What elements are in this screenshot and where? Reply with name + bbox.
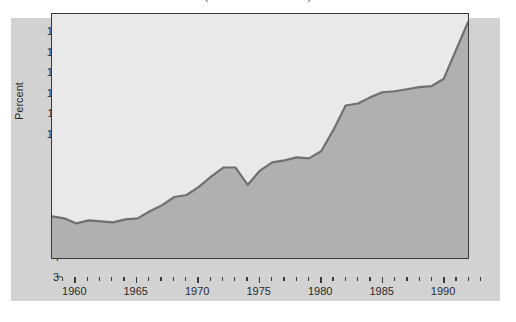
x-axis-tick-marks — [62, 277, 480, 284]
x-axis-tick-mark-minor — [431, 277, 432, 281]
x-axis-tick-mark-major — [74, 277, 76, 283]
x-axis-tick-mark-major — [382, 277, 384, 283]
x-axis-tick-label: 1980 — [298, 285, 342, 298]
x-axis-tick-mark-minor — [99, 277, 100, 281]
plot-area — [51, 13, 469, 259]
x-axis-tick-mark-major — [259, 277, 261, 283]
x-axis-tick-mark-minor — [185, 277, 186, 281]
chart-figure: (1959 - 1993 Annual) Percent 34567891011… — [0, 0, 516, 322]
chart-title: (1959 - 1993 Annual) — [0, 0, 516, 3]
x-axis-tick-mark-minor — [406, 277, 407, 281]
chart-title-container: (1959 - 1993 Annual) — [0, 0, 516, 5]
x-axis-tick-mark-minor — [87, 277, 88, 281]
x-axis-tick-mark-minor — [455, 277, 456, 281]
x-axis-tick-mark-minor — [296, 277, 297, 281]
x-axis-tick-mark-minor — [62, 277, 63, 281]
x-axis-tick-mark-minor — [345, 277, 346, 281]
x-axis-tick-mark-minor — [173, 277, 174, 281]
x-axis-tick-mark-minor — [332, 277, 333, 281]
x-axis-tick-mark-minor — [210, 277, 211, 281]
x-axis-tick-mark-minor — [234, 277, 235, 281]
area-chart-svg — [52, 14, 468, 258]
x-axis-tick-mark-major — [443, 277, 445, 283]
x-axis-labels: 1960196519701975198019851990 — [62, 285, 480, 301]
x-axis-tick-mark-major — [320, 277, 322, 283]
x-axis-tick-label: 1965 — [114, 285, 158, 298]
x-axis-tick-mark-minor — [148, 277, 149, 281]
x-axis-tick-mark-minor — [308, 277, 309, 281]
x-axis-tick-mark-minor — [123, 277, 124, 281]
x-axis-tick-mark-minor — [246, 277, 247, 281]
x-axis-tick-mark-minor — [160, 277, 161, 281]
x-axis-tick-mark-major — [197, 277, 199, 283]
x-axis-tick-mark-major — [136, 277, 138, 283]
x-axis-tick-mark-minor — [480, 277, 481, 281]
x-axis-tick-mark-minor — [369, 277, 370, 281]
x-axis-tick-label: 1975 — [237, 285, 281, 298]
x-axis-tick-mark-minor — [419, 277, 420, 281]
x-axis-tick-label: 1985 — [360, 285, 404, 298]
x-axis-tick-mark-minor — [271, 277, 272, 281]
x-axis-tick-label: 1960 — [52, 285, 96, 298]
x-axis-tick-label: 1970 — [175, 285, 219, 298]
x-axis-tick-mark-minor — [394, 277, 395, 281]
x-axis-tick-mark-minor — [357, 277, 358, 281]
x-axis-tick-mark-minor — [111, 277, 112, 281]
x-axis-tick-mark-minor — [283, 277, 284, 281]
x-axis-tick-mark-minor — [468, 277, 469, 281]
x-axis-tick-mark-minor — [222, 277, 223, 281]
x-axis-tick-label: 1990 — [421, 285, 465, 298]
